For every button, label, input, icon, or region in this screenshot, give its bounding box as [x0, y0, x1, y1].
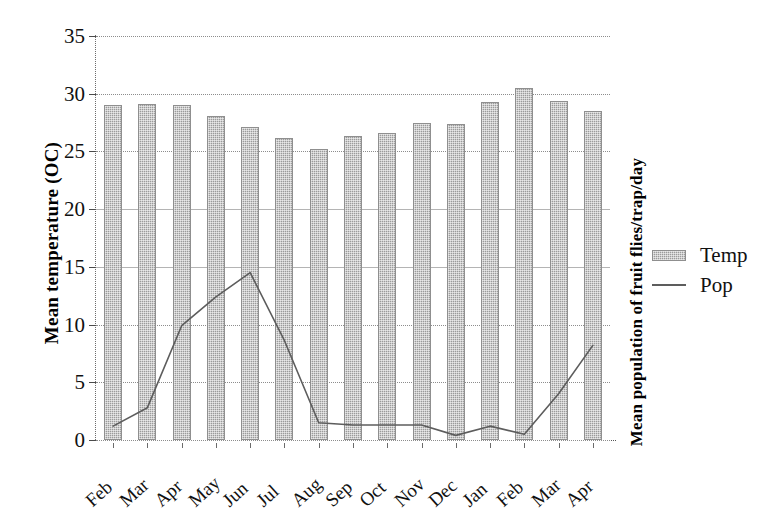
- x-tick-8: [387, 443, 388, 448]
- y-tick-label-25: 25: [64, 139, 85, 164]
- x-tick-7: [353, 443, 354, 448]
- y-tick-label-35: 35: [64, 24, 85, 49]
- x-axis-labels: FebMarAprMayJunJulAugSepOctNovDecJanFebM…: [96, 443, 610, 523]
- legend-item-temp: Temp: [652, 240, 764, 270]
- x-tick-label-8: Oct: [355, 477, 390, 512]
- y-tick-20: [89, 209, 96, 210]
- legend-item-pop: Pop: [652, 270, 764, 300]
- x-tick-label-0: Feb: [81, 476, 117, 511]
- x-tick-label-4: Jun: [218, 478, 252, 512]
- y-tick-25: [89, 151, 96, 152]
- x-tick-14: [593, 443, 594, 448]
- x-tick-label-13: Mar: [527, 474, 565, 512]
- x-tick-1: [147, 443, 148, 448]
- y-tick-label-20: 20: [64, 197, 85, 222]
- x-tick-label-10: Dec: [424, 475, 461, 512]
- legend-label-pop: Pop: [700, 275, 733, 296]
- x-tick-6: [319, 443, 320, 448]
- legend-label-temp: Temp: [700, 245, 748, 266]
- x-tick-label-3: May: [184, 472, 225, 512]
- x-tick-label-5: Jul: [253, 480, 284, 511]
- legend-line-swatch-icon: [652, 284, 686, 286]
- x-tick-label-9: Nov: [390, 473, 429, 511]
- x-tick-label-7: Sep: [321, 476, 357, 511]
- gridline-0: [96, 440, 610, 441]
- x-tick-11: [490, 443, 491, 448]
- x-tick-label-11: Jan: [458, 478, 492, 511]
- y-axis-title: Mean temperature (OC): [41, 93, 63, 393]
- y-tick-label-0: 0: [75, 428, 86, 453]
- chart-legend: Temp Pop: [652, 240, 764, 300]
- x-tick-12: [524, 443, 525, 448]
- x-tick-label-2: Apr: [150, 475, 187, 511]
- chart-figure: Mean temperature (OC) Mean population of…: [0, 0, 767, 523]
- legend-bar-swatch-icon: [652, 250, 686, 261]
- plot-area: 05101520253035: [96, 36, 610, 440]
- y-tick-15: [89, 267, 96, 268]
- x-tick-label-14: Apr: [561, 475, 598, 511]
- x-tick-3: [216, 443, 217, 448]
- y-tick-label-10: 10: [64, 312, 85, 337]
- x-tick-10: [456, 443, 457, 448]
- pop-polyline: [113, 273, 593, 436]
- secondary-y-axis-title: Mean population of fruit flies/trap/day: [627, 142, 647, 462]
- x-tick-13: [559, 443, 560, 448]
- y-tick-35: [89, 36, 96, 37]
- y-tick-10: [89, 325, 96, 326]
- x-tick-0: [113, 443, 114, 448]
- x-tick-label-1: Mar: [115, 474, 153, 512]
- y-tick-label-5: 5: [75, 370, 86, 395]
- x-tick-5: [284, 443, 285, 448]
- x-tick-9: [422, 443, 423, 448]
- x-tick-4: [250, 443, 251, 448]
- x-tick-label-12: Feb: [492, 476, 528, 511]
- x-tick-label-6: Aug: [287, 473, 326, 511]
- x-tick-2: [182, 443, 183, 448]
- y-tick-30: [89, 94, 96, 95]
- y-tick-5: [89, 382, 96, 383]
- y-tick-0: [89, 440, 96, 441]
- y-tick-label-30: 30: [64, 81, 85, 106]
- line-series-pop: [96, 36, 610, 440]
- y-tick-label-15: 15: [64, 254, 85, 279]
